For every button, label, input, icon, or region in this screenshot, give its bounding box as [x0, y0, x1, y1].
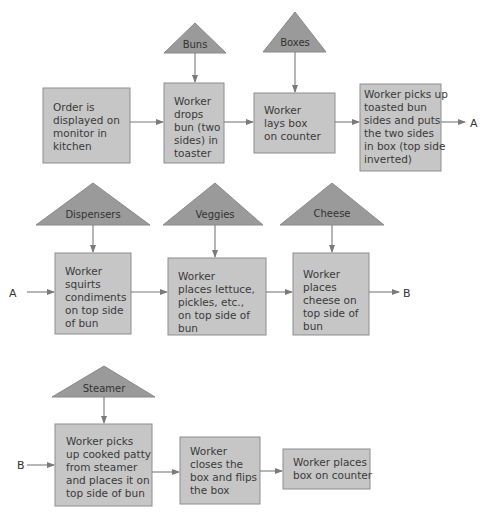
input-label: Cheese	[314, 208, 351, 219]
input-buns: Buns	[164, 23, 226, 53]
step-place-box-counter: Worker places box on counter	[283, 449, 373, 489]
step-lay-box: Worker lays box on counter	[254, 93, 335, 153]
connector-a-out: A	[470, 117, 478, 130]
step-drop-bun: Worker drops bun (two sides) in toaster	[164, 83, 224, 163]
step-order-displayed: Order is displayed on monitor in kitchen	[43, 88, 130, 163]
connector-a-in: A	[9, 287, 17, 300]
input-dispensers: Dispensers	[36, 183, 150, 225]
step-place-veggies: Worker places lettuce, pickles, etc., on…	[168, 258, 266, 335]
input-label: Buns	[183, 39, 208, 50]
step-place-patty: Worker picks up cooked patty from steame…	[55, 424, 154, 506]
input-veggies: Veggies	[163, 183, 263, 225]
input-cheese: Cheese	[280, 183, 384, 225]
input-label: Steamer	[83, 383, 126, 394]
connector-b-in: B	[17, 459, 25, 472]
step-pick-up-bun: Worker picks up toasted bun sides and pu…	[360, 84, 451, 171]
input-label: Boxes	[280, 37, 310, 48]
process-flow-diagram: Buns Boxes Order is displayed on monitor…	[0, 0, 491, 518]
input-label: Veggies	[195, 209, 234, 220]
step-text: Worker places box on counter	[293, 456, 373, 481]
step-place-cheese: Worker places cheese on top side of bun	[293, 253, 369, 335]
step-squirt-condiments: Worker squirts condiments on top side of…	[55, 253, 131, 334]
input-boxes: Boxes	[263, 12, 326, 52]
input-label: Dispensers	[65, 209, 120, 220]
input-steamer: Steamer	[52, 366, 155, 397]
step-close-flip-box: Worker closes the box and flips the box	[180, 437, 260, 504]
connector-b-out: B	[403, 287, 411, 300]
